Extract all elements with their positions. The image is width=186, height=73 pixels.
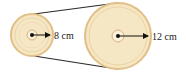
small-radius-label: 8 cm (54, 30, 74, 41)
large-radius-label: 12 cm (152, 31, 177, 42)
pulley-belt-diagram: 8 cm 12 cm (0, 0, 186, 73)
large-pulley (85, 3, 151, 69)
small-pulley (11, 14, 53, 56)
